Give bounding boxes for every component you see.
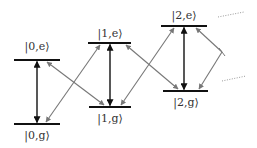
label-1e: |1,e⟩	[97, 27, 122, 41]
label-1g: |1,g⟩	[97, 112, 123, 126]
label-2g: |2,g⟩	[173, 96, 199, 110]
continuation-dots-lower	[222, 76, 246, 81]
label-0e: |0,e⟩	[24, 40, 49, 54]
energy-level-diagram: |0,e⟩ |0,g⟩ |1,e⟩ |1,g⟩ |2,e⟩ |2,g⟩	[0, 0, 257, 148]
arrow-1e-2g	[126, 45, 178, 89]
arrow-2e-crossing	[196, 28, 222, 52]
label-2e: |2,e⟩	[171, 9, 196, 23]
arrow-crossing-2g	[199, 52, 222, 89]
arrow-1g-2e	[121, 28, 174, 105]
arrow-0g-1e	[46, 45, 100, 122]
label-0g: |0,g⟩	[24, 129, 50, 143]
arrow-0e-1g	[47, 62, 104, 105]
continuation-dots-upper	[218, 12, 244, 17]
